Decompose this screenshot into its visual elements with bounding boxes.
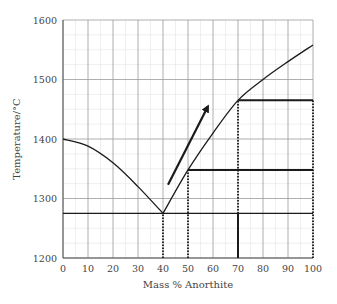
x-tick-label: 30 xyxy=(132,263,144,274)
x-tick-label: 70 xyxy=(232,263,244,274)
y-tick-label: 1200 xyxy=(33,253,57,264)
x-tick-label: 100 xyxy=(304,263,322,274)
x-tick-label: 90 xyxy=(282,263,294,274)
x-tick-label: 40 xyxy=(157,263,169,274)
x-tick-label: 60 xyxy=(207,263,219,274)
y-tick-label: 1600 xyxy=(33,15,57,26)
x-tick-label: 0 xyxy=(60,263,66,274)
x-axis-label: Mass % Anorthite xyxy=(143,279,233,290)
y-tick-label: 1400 xyxy=(33,134,57,145)
x-tick-label: 20 xyxy=(107,263,119,274)
phase-diagram-chart: 0102030405060708090100120013001400150016… xyxy=(0,0,337,304)
y-axis-label: Temperature/°C xyxy=(11,98,22,180)
x-tick-label: 10 xyxy=(82,263,94,274)
x-tick-label: 80 xyxy=(257,263,269,274)
y-tick-label: 1300 xyxy=(33,193,57,204)
y-tick-label: 1500 xyxy=(33,74,57,85)
x-tick-label: 50 xyxy=(182,263,194,274)
